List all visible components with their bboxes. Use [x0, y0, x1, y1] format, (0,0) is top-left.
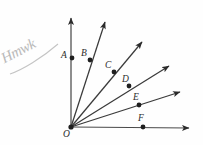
origin-label-o: O [63, 130, 70, 140]
point-label-b: B [81, 49, 87, 59]
point-e [137, 103, 142, 108]
rays-group [71, 18, 189, 128]
point-label-d: D [122, 75, 129, 85]
ray-diagram-canvas [0, 0, 203, 145]
point-label-c: C [105, 61, 111, 71]
ray-through-b [71, 22, 105, 127]
horizontal-axis-ray [71, 127, 189, 128]
point-label-e: E [133, 93, 139, 103]
geometry-figure: Hmwk O A B C D E F [0, 0, 203, 145]
point-a [70, 56, 75, 61]
ray-through-d [71, 66, 169, 127]
ray-through-e [71, 92, 180, 127]
point-f [141, 125, 146, 130]
point-label-a: A [61, 51, 67, 61]
point-c [112, 70, 117, 75]
point-b [88, 58, 93, 63]
point-label-f: F [138, 114, 144, 124]
